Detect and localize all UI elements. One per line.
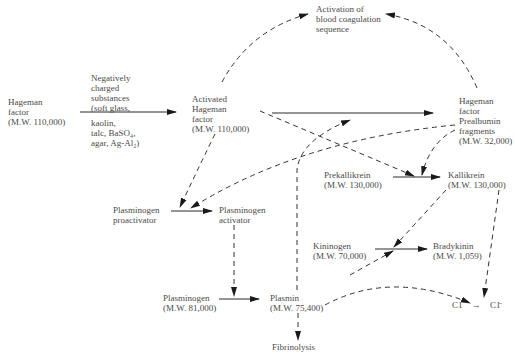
node-label: Hageman: [8, 97, 65, 107]
node-label: (soft glass,: [91, 103, 131, 113]
node-plasminogen-proactivator: Plasminogen proactivator: [113, 205, 160, 225]
node-label: charged: [91, 83, 131, 93]
node-label: Plasminogen: [163, 293, 216, 303]
node-label: Prekallikrein: [324, 170, 382, 180]
node-label: (M.W. 1,059): [433, 251, 482, 261]
node-label: talc, BaSO₄,: [91, 128, 139, 138]
node-coagulation: Activation of blood coagulation sequence: [316, 4, 381, 34]
node-label: substances: [91, 93, 131, 103]
node-label: Negatively: [91, 73, 131, 83]
node-label: blood coagulation: [316, 14, 381, 24]
node-label: factor: [459, 106, 512, 116]
node-label: agar, Ag-Al₂): [91, 138, 139, 148]
dash-fragments-to-kallikrein: [422, 130, 455, 175]
node-label: (M.W. 81,000): [163, 303, 216, 313]
node-kininogen: Kininogen (M.W. 70,000): [313, 241, 366, 261]
node-hf-fragments: Hageman factor Prealbumin fragments (M.W…: [459, 96, 512, 146]
node-label: Activation of: [316, 4, 381, 14]
node-plasminogen-activator: Plasminogen activator: [219, 205, 266, 225]
node-label: Hageman: [459, 96, 512, 106]
node-label: Activated: [192, 94, 249, 104]
node-label: Prealbumin: [459, 116, 512, 126]
node-label: (M.W. 130,000): [324, 180, 382, 190]
c1-arrow: →: [472, 300, 481, 310]
node-kallikrein: Kallikrein (M.W. 130,000): [448, 170, 506, 190]
node-label: proactivator: [113, 215, 160, 225]
node-label: kaolin,: [91, 118, 139, 128]
node-label: Kininogen: [313, 241, 366, 251]
node-label: factor: [8, 107, 65, 117]
node-label: Plasminogen: [219, 205, 266, 215]
c1-active-label: C1̄: [490, 300, 501, 310]
dash-plasmin-to-activated: [297, 120, 350, 290]
node-label: Bradykinin: [433, 241, 482, 251]
dash-fragments-to-proactivator: [191, 125, 455, 208]
node-label: Hageman: [192, 104, 249, 114]
node-label: (M.W. 32,000): [459, 136, 512, 146]
node-label: sequence: [316, 24, 381, 34]
node-activated-hageman: Activated Hageman factor (M.W. 110,000): [192, 94, 249, 134]
node-plasmin: Plasmin (M.W. 75,400): [270, 293, 323, 313]
node-label: Plasminogen: [113, 205, 160, 215]
node-label: (M.W. 130,000): [448, 180, 506, 190]
dash-kallikrein-to-c1: [484, 190, 499, 297]
dash-plasmin-to-c1: [325, 287, 470, 305]
node-label: (M.W. 110,000): [192, 124, 249, 134]
dash-fragments-to-coagulation: [386, 14, 477, 88]
dash-kallikrein-to-kininogen: [394, 190, 446, 247]
node-label: (M.W. 75,400): [270, 303, 323, 313]
node-activator-substances-bottom: kaolin, talc, BaSO₄, agar, Ag-Al₂): [91, 118, 139, 148]
node-label: activator: [219, 215, 266, 225]
node-plasminogen: Plasminogen (M.W. 81,000): [163, 293, 216, 313]
node-fibrinolysis: Fibrinolysis: [272, 342, 315, 352]
node-bradykinin: Bradykinin (M.W. 1,059): [433, 241, 482, 261]
node-label: Kallikrein: [448, 170, 506, 180]
node-c1: C1 → C1̄: [452, 300, 501, 310]
node-label: fragments: [459, 126, 512, 136]
node-label: factor: [192, 114, 249, 124]
node-prekallikrein: Prekallikrein (M.W. 130,000): [324, 170, 382, 190]
node-activator-substances-top: Negatively charged substances (soft glas…: [91, 73, 131, 113]
node-label: Plasmin: [270, 293, 323, 303]
node-label: Fibrinolysis: [272, 342, 315, 352]
node-label: (M.W. 70,000): [313, 251, 366, 261]
node-hageman-factor: Hageman factor (M.W. 110,000): [8, 97, 65, 127]
dash-activated-to-kallikrein: [260, 111, 414, 176]
pathway-diagram: [0, 0, 515, 357]
dash-activated-to-coagulation: [222, 14, 308, 82]
c1-label: C1: [452, 300, 463, 310]
dash-activated-to-proactivator: [180, 134, 215, 207]
node-label: (M.W. 110,000): [8, 117, 65, 127]
